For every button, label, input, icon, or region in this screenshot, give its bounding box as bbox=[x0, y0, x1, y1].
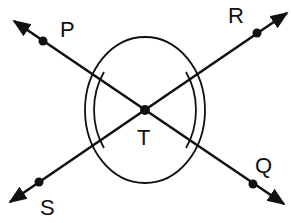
label-S: S bbox=[40, 195, 55, 220]
label-R: R bbox=[228, 3, 244, 28]
inner-arc-right bbox=[186, 72, 196, 148]
diagram-canvas: P R T Q S bbox=[0, 0, 291, 223]
point-R bbox=[253, 29, 262, 38]
label-T: T bbox=[137, 125, 150, 150]
intersecting-lines-diagram: P R T Q S bbox=[0, 0, 291, 223]
point-P bbox=[39, 37, 48, 46]
label-P: P bbox=[60, 17, 75, 42]
inner-arc-left bbox=[94, 72, 104, 148]
point-Q bbox=[249, 180, 258, 189]
point-S bbox=[35, 178, 44, 187]
label-Q: Q bbox=[255, 153, 272, 178]
point-T bbox=[140, 105, 150, 115]
